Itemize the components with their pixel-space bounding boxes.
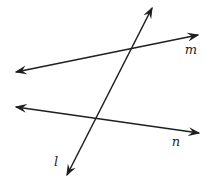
geometry-diagram: mnl [0, 0, 220, 187]
line-label-n: n [172, 134, 180, 149]
line-n [16, 107, 199, 133]
diagram-svg: mnl [0, 0, 220, 187]
line-m [16, 35, 198, 72]
line-l [67, 8, 152, 175]
line-label-l: l [54, 154, 58, 169]
line-label-m: m [185, 42, 197, 57]
